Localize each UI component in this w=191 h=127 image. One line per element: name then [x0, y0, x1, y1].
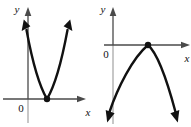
parabola-curve [27, 30, 68, 99]
panel-upward-parabola: y x 0 [0, 0, 95, 127]
y-axis-label: y [14, 3, 20, 15]
x-axis-label: x [85, 106, 91, 118]
vertex-point [145, 42, 151, 48]
y-axis-label: y [100, 3, 106, 15]
y-axis-arrowhead [110, 7, 117, 16]
origin-label: 0 [18, 102, 24, 114]
x-axis-arrowhead [77, 96, 86, 102]
parabola-curve [110, 45, 176, 112]
upward-parabola-plot: y x 0 [0, 0, 95, 127]
x-axis-arrowhead [181, 42, 190, 48]
y-axis-arrowhead [25, 7, 32, 16]
panel-downward-parabola: y x 0 [95, 0, 191, 127]
downward-parabola-plot: y x 0 [95, 0, 191, 127]
curve-arrowhead-right [170, 110, 179, 123]
origin-label: 0 [103, 48, 109, 60]
x-axis-label: x [184, 52, 190, 64]
parabola-figure: y x 0 y x [0, 0, 191, 127]
vertex-point [44, 96, 50, 102]
